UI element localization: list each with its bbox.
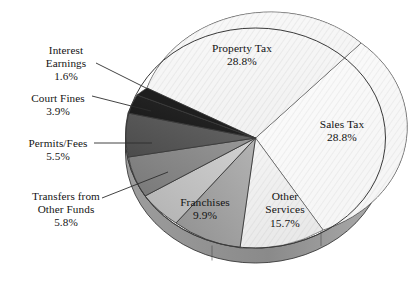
callout-transfers-other-funds: Transfers from Other Funds 5.8% [6, 190, 126, 230]
callout-permits-fees-name: Permits/Fees [2, 137, 114, 150]
slice-label-other-services-name2: Services [248, 203, 322, 216]
slice-label-franchises-name: Franchises [166, 196, 244, 209]
slice-label-other-services: Other Services 15.7% [248, 190, 322, 230]
slice-label-franchises-value: 9.9% [166, 209, 244, 222]
slice-label-property-tax-value: 28.8% [186, 55, 298, 68]
slice-label-franchises: Franchises 9.9% [166, 196, 244, 223]
callout-interest-earnings-value: 1.6% [18, 70, 114, 83]
slice-label-property-tax-name: Property Tax [186, 42, 298, 55]
callout-permits-fees-value: 5.5% [2, 150, 114, 163]
callout-transfers-name2: Other Funds [6, 203, 126, 216]
callout-court-fines-value: 3.9% [6, 105, 110, 118]
callout-court-fines-name: Court Fines [6, 92, 110, 105]
slice-label-sales-tax-name: Sales Tax [300, 118, 384, 131]
callout-court-fines: Court Fines 3.9% [6, 92, 110, 118]
slice-label-other-services-name: Other [248, 190, 322, 203]
callout-interest-earnings: Interest Earnings 1.6% [18, 44, 114, 84]
callout-transfers-value: 5.8% [6, 216, 126, 229]
slice-label-other-services-value: 15.7% [248, 217, 322, 230]
callout-transfers-name: Transfers from [6, 190, 126, 203]
callout-permits-fees: Permits/Fees 5.5% [2, 137, 114, 163]
pie-chart-figure: Interest Earnings 1.6% Court Fines 3.9% … [0, 0, 409, 281]
callout-interest-earnings-name2: Earnings [18, 57, 114, 70]
slice-label-property-tax: Property Tax 28.8% [186, 42, 298, 69]
slice-label-sales-tax: Sales Tax 28.8% [300, 118, 384, 145]
slice-label-sales-tax-value: 28.8% [300, 131, 384, 144]
callout-interest-earnings-name: Interest [18, 44, 114, 57]
